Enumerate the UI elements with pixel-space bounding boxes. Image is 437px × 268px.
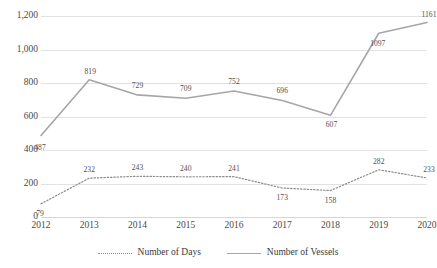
y-axis-tick-label: 800 bbox=[2, 78, 38, 88]
x-axis-tick-label: 2018 bbox=[321, 221, 340, 231]
data-label: 696 bbox=[277, 88, 288, 96]
x-axis-tick-label: 2015 bbox=[176, 221, 195, 231]
x-axis-tick-label: 2013 bbox=[80, 221, 99, 231]
y-axis-tick-label: 400 bbox=[2, 145, 38, 155]
data-label: 752 bbox=[228, 78, 239, 86]
x-axis-tick-label: 2014 bbox=[128, 221, 147, 231]
data-label: 232 bbox=[84, 166, 95, 174]
y-axis-tick-label: 1,200 bbox=[2, 11, 38, 21]
data-label: 158 bbox=[325, 197, 336, 205]
data-label: 1097 bbox=[370, 40, 385, 48]
y-axis-tick-label: 1,000 bbox=[2, 45, 38, 55]
x-axis-tick-label: 2016 bbox=[225, 221, 244, 231]
data-label: 282 bbox=[373, 158, 384, 166]
data-label: 1161 bbox=[422, 11, 437, 19]
x-axis-tick-label: 2019 bbox=[369, 221, 388, 231]
data-label: 709 bbox=[180, 85, 191, 93]
data-label: 173 bbox=[277, 194, 288, 202]
plot-area: 7923224324024117315828223348781972970975… bbox=[41, 16, 427, 217]
gridline bbox=[41, 217, 427, 218]
chart-legend: Number of DaysNumber of Vessels bbox=[0, 243, 436, 263]
legend-item-number-of-days[interactable]: Number of Days bbox=[98, 248, 201, 258]
legend-label: Number of Days bbox=[138, 248, 201, 258]
x-axis-tick-label: 2017 bbox=[273, 221, 292, 231]
x-axis: 201220132014201520162017201820192020 bbox=[41, 221, 427, 237]
data-label: 607 bbox=[326, 122, 337, 130]
data-label: 79 bbox=[36, 210, 44, 218]
data-label: 241 bbox=[228, 165, 239, 173]
data-label: 233 bbox=[423, 166, 434, 174]
data-label: 240 bbox=[180, 165, 191, 173]
data-label: 487 bbox=[34, 145, 45, 153]
data-label: 729 bbox=[132, 82, 143, 90]
data-label: 243 bbox=[132, 165, 143, 173]
legend-item-number-of-vessels[interactable]: Number of Vessels bbox=[227, 248, 339, 258]
legend-label: Number of Vessels bbox=[267, 248, 339, 258]
series-line-number-of-days bbox=[41, 170, 427, 204]
x-axis-tick-label: 2020 bbox=[418, 221, 437, 231]
y-axis-tick-label: 200 bbox=[2, 179, 38, 189]
legend-swatch-icon bbox=[98, 253, 132, 254]
x-axis-tick-label: 2012 bbox=[32, 221, 51, 231]
series-container bbox=[41, 16, 427, 217]
y-axis: 02004006008001,0001,200 bbox=[0, 16, 38, 217]
y-axis-tick-label: 600 bbox=[2, 112, 38, 122]
legend-swatch-icon bbox=[227, 253, 261, 254]
data-label: 819 bbox=[85, 68, 96, 76]
